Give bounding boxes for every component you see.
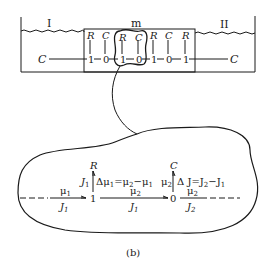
bond-in-flow: J1 bbox=[58, 201, 68, 214]
water-surface-right bbox=[195, 32, 255, 34]
chain-top-0: R bbox=[86, 30, 95, 41]
connector-line bbox=[112, 66, 137, 134]
chain-node-4: 1 bbox=[151, 54, 157, 65]
membrane-label: m bbox=[131, 17, 142, 30]
chain-node-6: 1 bbox=[183, 54, 189, 65]
element-C: C bbox=[170, 160, 178, 171]
chain-top-4: R bbox=[149, 30, 158, 41]
chain-node-1: 0 bbox=[103, 54, 109, 65]
chain-top-3: C bbox=[135, 32, 143, 43]
junction1-delta-mu: Δμ1=μ2−μ1 bbox=[96, 176, 153, 189]
junction-1: 1 bbox=[90, 193, 96, 204]
water-surface-left bbox=[21, 30, 84, 32]
junction-0: 0 bbox=[170, 193, 176, 204]
bond-in-effort: μ1 bbox=[60, 185, 71, 198]
chain-node-5: 0 bbox=[166, 54, 172, 65]
chain-top-1: C bbox=[102, 30, 110, 41]
junction1-flow-label: J1 bbox=[79, 176, 89, 189]
bond-out-flow: J2 bbox=[185, 201, 196, 214]
chain-node-3: 0 bbox=[136, 54, 142, 65]
chain-node-0: 1 bbox=[88, 54, 94, 65]
left-reservoir-C: C bbox=[38, 53, 47, 66]
chain-top-6: R bbox=[181, 30, 190, 41]
chain-node-2: 1 bbox=[120, 54, 126, 65]
junction0-delta-J: Δ J=J2−J1 bbox=[177, 176, 225, 189]
chain-top-5: C bbox=[165, 30, 173, 41]
compartment-right-label: II bbox=[220, 18, 229, 31]
right-reservoir-C: C bbox=[230, 53, 239, 66]
element-R: R bbox=[89, 160, 98, 171]
bond-graph-diagram: I m II C C R C R C R C R 1 0 1 0 1 0 1 R… bbox=[0, 0, 269, 265]
compartment-left-label: I bbox=[47, 17, 51, 30]
chain-top-2: R bbox=[118, 32, 127, 43]
bond-mid-flow: J1 bbox=[128, 201, 138, 214]
junction0-effort-label: μ2 bbox=[161, 176, 172, 189]
figure-caption: (b) bbox=[126, 247, 140, 258]
